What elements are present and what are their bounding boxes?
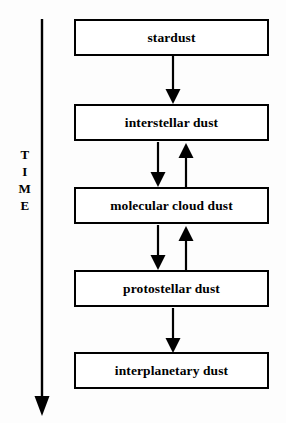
time-letter-e: E — [14, 197, 36, 214]
node-interstellar-dust: interstellar dust — [74, 104, 269, 141]
node-interplanetary-dust: interplanetary dust — [74, 352, 269, 389]
node-interstellar-dust-label: interstellar dust — [125, 115, 218, 131]
node-stardust: stardust — [74, 19, 269, 56]
arrow-down-icon — [151, 142, 166, 187]
edge-pair-interstellar-molecular — [138, 142, 208, 188]
edge-stardust-to-interstellar-dust — [152, 56, 194, 105]
time-letter-t: T — [14, 146, 36, 163]
node-interplanetary-dust-label: interplanetary dust — [115, 363, 228, 379]
node-molecular-cloud-dust: molecular cloud dust — [74, 187, 269, 224]
time-axis-label: T I M E — [14, 146, 36, 214]
arrow-down-icon — [152, 56, 194, 105]
time-letter-m: M — [14, 180, 36, 197]
time-axis: T I M E — [0, 0, 70, 423]
arrow-up-icon — [179, 226, 194, 270]
arrow-down-icon — [151, 225, 166, 270]
node-stardust-label: stardust — [147, 30, 195, 46]
node-protostellar-dust: protostellar dust — [74, 270, 269, 307]
node-protostellar-dust-label: protostellar dust — [123, 281, 220, 297]
edge-pair-molecular-protostellar — [138, 225, 208, 271]
dust-evolution-diagram: T I M E stardust interstellar dust molec… — [0, 0, 286, 423]
arrow-down-icon — [152, 308, 194, 354]
node-molecular-cloud-dust-label: molecular cloud dust — [110, 198, 233, 214]
time-letter-i: I — [14, 163, 36, 180]
arrow-up-icon — [179, 143, 194, 187]
edge-protostellar-to-interplanetary — [152, 308, 194, 354]
